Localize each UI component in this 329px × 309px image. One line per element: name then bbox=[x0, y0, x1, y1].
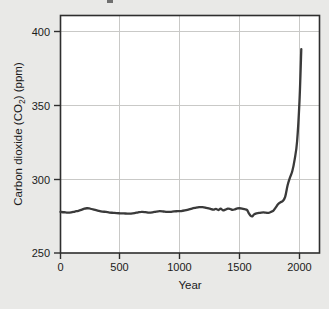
xtick-label-0: 0 bbox=[57, 261, 63, 273]
x-axis-ticks bbox=[61, 253, 300, 259]
y-axis-title: Carbon dioxide (CO2) (ppm) bbox=[12, 62, 27, 206]
xtick-label-2000: 2000 bbox=[287, 261, 311, 273]
co2-line-chart: 400 350 300 250 0 500 1000 1500 2000 Yea… bbox=[0, 0, 329, 309]
ytick-label-250: 250 bbox=[32, 247, 50, 259]
co2-chart-figure: 400 350 300 250 0 500 1000 1500 2000 Yea… bbox=[0, 0, 329, 309]
ytick-label-400: 400 bbox=[32, 26, 50, 38]
y-axis-ticks bbox=[54, 32, 60, 254]
x-axis-title: Year bbox=[178, 279, 201, 291]
ytick-label-350: 350 bbox=[32, 100, 50, 112]
xtick-label-500: 500 bbox=[110, 261, 128, 273]
plot-area-background bbox=[60, 15, 320, 253]
xtick-label-1000: 1000 bbox=[167, 261, 191, 273]
xtick-label-1500: 1500 bbox=[227, 261, 251, 273]
ytick-label-300: 300 bbox=[32, 174, 50, 186]
svg-text:Carbon dioxide (CO2) (ppm): Carbon dioxide (CO2) (ppm) bbox=[12, 62, 27, 206]
